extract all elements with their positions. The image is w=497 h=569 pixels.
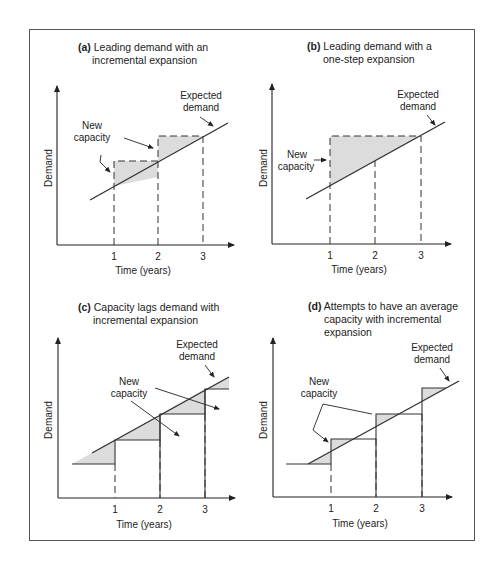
panel-b-tick-3: 3 [418, 250, 424, 261]
panel-a-title-line1: (a) Leading demand with an [78, 41, 208, 53]
panel-b-tick-2: 2 [372, 250, 378, 261]
panel-a-expected-demand-line [90, 123, 228, 200]
panel-a-tick-3: 3 [200, 251, 206, 262]
panel-c-x-label: Time (years) [116, 519, 172, 530]
panel-b: (b) Leading demand with a one-step expan… [258, 40, 451, 275]
panel-d-tick-2: 2 [373, 503, 379, 514]
panel-a-pointer-3 [200, 117, 213, 126]
panel-d-expected-demand-label: Expected [411, 342, 453, 353]
panel-b-expected-demand-label-2: demand [400, 101, 436, 112]
panel-c-expected-demand-label: Expected [176, 339, 218, 350]
panel-a-tick-1: 1 [111, 251, 117, 262]
panel-a-x-label: Time (years) [115, 265, 171, 276]
panel-a: (a) Leading demand with an incremental e… [43, 41, 234, 276]
panel-a-new-capacity-label-2: capacity [74, 132, 111, 143]
panel-d-pointer-1 [313, 404, 372, 442]
panel-b-pointer-2 [427, 115, 435, 125]
panel-b-y-label: Demand [258, 149, 269, 187]
panel-c-pointer-3 [205, 365, 214, 377]
panel-a-tick-2: 2 [155, 251, 161, 262]
panel-b-expected-demand-label: Expected [397, 89, 439, 100]
panel-b-x-label: Time (years) [331, 264, 387, 275]
panel-c-shortage-3 [160, 389, 205, 414]
panel-c-expected-demand-label-2: demand [179, 351, 215, 362]
panel-c-tick-1: 1 [112, 504, 118, 515]
panel-b-new-capacity-label-2: capacity [278, 161, 315, 172]
panel-a-pointer-2 [124, 138, 153, 148]
panel-d-title-line1: (d) Attempts to have an average [308, 300, 458, 312]
capacity-strategies-figure: (a) Leading demand with an incremental e… [0, 0, 497, 569]
panel-a-new-capacity-label: New [82, 120, 103, 131]
panel-d-pointer-2 [440, 368, 449, 381]
panel-a-pointer-1 [100, 155, 110, 172]
panel-a-expected-demand-label: Expected [180, 90, 222, 101]
panel-d: (d) Attempts to have an average capacity… [258, 300, 459, 529]
panel-a-excess-capacity-2 [158, 136, 203, 161]
panel-c-tick-2: 2 [157, 504, 163, 515]
panel-d-y-label: Demand [258, 401, 269, 439]
panel-a-title-line2: incremental expansion [92, 54, 197, 66]
panel-c: (c) Capacity lags demand with incrementa… [43, 301, 235, 530]
panel-d-expected-demand-label-2: demand [414, 354, 450, 365]
panel-c-new-capacity-label: New [119, 376, 140, 387]
panel-d-title-line2: capacity with incremental [324, 313, 441, 325]
panel-c-new-capacity-label-2: capacity [111, 388, 148, 399]
panel-b-title-line1: (b) Leading demand with a [307, 40, 432, 52]
panel-d-title-line3: expansion [324, 326, 372, 338]
panel-b-tick-1: 1 [327, 250, 333, 261]
panel-d-new-capacity-label-2: capacity [301, 388, 338, 399]
panel-b-title-line2: one-step expansion [323, 53, 415, 65]
panel-a-y-label: Demand [43, 149, 54, 187]
panel-d-x-label: Time (years) [332, 518, 388, 529]
panel-d-new-capacity-label: New [309, 376, 330, 387]
panel-d-tick-1: 1 [328, 503, 334, 514]
panel-a-expected-demand-label-2: demand [183, 102, 219, 113]
panel-c-tick-3: 3 [202, 504, 208, 515]
panel-b-new-capacity-label: New [287, 149, 308, 160]
panel-c-y-label: Demand [43, 401, 54, 439]
panel-c-title-line2: incremental expansion [93, 314, 198, 326]
panel-d-tick-3: 3 [419, 503, 425, 514]
panel-c-title-line1: (c) Capacity lags demand with [78, 301, 219, 313]
